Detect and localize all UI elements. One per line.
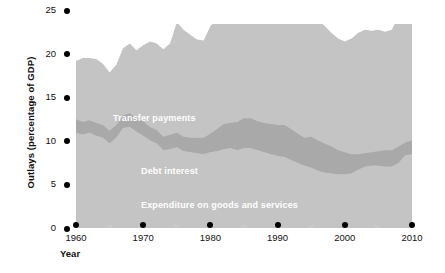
y-tick-10: 10 — [26, 135, 70, 147]
series-label-debt-interest: Debt interest — [141, 166, 198, 176]
x-tick-dot-2000 — [342, 222, 348, 228]
x-tick-label-2000: 2000 — [315, 232, 375, 243]
x-tick-dot-1990 — [275, 222, 281, 228]
x-tick-label-1960: 1960 — [46, 232, 106, 243]
x-tick-label-1970: 1970 — [113, 232, 173, 243]
y-tick-5: 5 — [26, 178, 70, 190]
y-tick-dot-15 — [64, 95, 70, 101]
y-tick-20: 20 — [26, 48, 70, 60]
x-tick-minor-1985 — [241, 225, 246, 228]
x-tick-minor-1965 — [107, 225, 112, 228]
y-tick-15: 15 — [26, 91, 70, 103]
series-label-expenditure: Expenditure on goods and services — [141, 200, 298, 210]
y-tick-dot-25 — [64, 8, 70, 14]
series-label-transfer-payments: Transfer payments — [113, 113, 196, 123]
x-tick-dot-2010 — [409, 222, 415, 228]
x-tick-dot-1960 — [73, 222, 79, 228]
x-tick-label-1990: 1990 — [248, 232, 308, 243]
x-tick-minor-2005 — [375, 225, 380, 228]
y-tick-dot-10 — [64, 138, 70, 144]
y-tick-25: 25 — [26, 4, 70, 16]
y-tick-label-15: 15 — [45, 91, 56, 103]
y-tick-dot-5 — [64, 182, 70, 188]
y-tick-dot-0 — [64, 226, 70, 232]
y-tick-dot-20 — [64, 51, 70, 57]
y-tick-label-5: 5 — [51, 178, 56, 190]
x-axis-title: Year — [60, 248, 80, 259]
chart-figure: Outlays (percentage of GDP) 25 20 15 10 … — [0, 0, 445, 273]
x-tick-label-1980: 1980 — [180, 232, 240, 243]
y-tick-label-25: 25 — [45, 4, 56, 16]
x-tick-label-2010: 2010 — [382, 232, 442, 243]
y-tick-label-10: 10 — [45, 135, 56, 147]
y-tick-label-20: 20 — [45, 48, 56, 60]
x-tick-minor-1995 — [308, 225, 313, 228]
plot-area — [76, 24, 412, 228]
x-tick-minor-1975 — [174, 225, 179, 228]
